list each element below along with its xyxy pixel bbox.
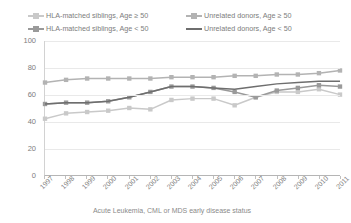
data-point-marker [232,90,236,94]
gridline [45,68,340,69]
data-point-marker [169,75,173,79]
x-axis-labels: 1997199819992000200120022003200420052006… [44,180,340,206]
data-point-marker [106,108,110,112]
data-point-marker [169,98,173,102]
data-point-marker [85,76,89,80]
data-point-marker [317,87,321,91]
data-point-marker [211,96,215,100]
data-point-marker [148,76,152,80]
data-point-marker [43,117,47,121]
legend-square-marker-icon [191,13,197,19]
y-axis-tick-label: 100 [23,37,36,45]
legend-swatch-icon [28,24,44,33]
legend-swatch-icon [28,11,44,20]
x-axis-title: Acute Leukemia, CML or MDS early disease… [0,207,344,214]
y-axis-tick-label: 20 [28,145,36,153]
legend-label: Unrelated donors, Age < 50 [204,24,292,33]
data-point-marker [148,107,152,111]
data-point-marker [127,76,131,80]
legend-square-marker-icon [33,26,39,32]
plot-area [44,41,340,176]
data-point-marker [296,86,300,90]
y-axis-labels: 100806040200 [0,36,40,176]
data-point-marker [254,74,258,78]
gridline [45,41,340,42]
legend-label: HLA-matched siblings, Age < 50 [46,24,148,33]
data-point-marker [317,71,321,75]
data-point-marker [275,88,279,92]
chart-legend: HLA-matched siblings, Age ≥ 50 Unrelated… [28,9,328,35]
data-point-marker [43,80,47,84]
legend-square-marker-icon [33,13,39,19]
data-point-marker [85,110,89,114]
data-point-marker [106,76,110,80]
plot-area-wrapper: 100806040200 [0,36,344,181]
data-point-marker [275,72,279,76]
data-point-marker [64,78,68,82]
legend-item-unrelated-age-ge-50[interactable]: Unrelated donors, Age ≥ 50 [186,9,326,22]
legend-label: Unrelated donors, Age ≥ 50 [204,11,291,20]
legend-line-icon [186,28,202,30]
y-axis-tick-label: 80 [28,64,36,72]
legend-item-unrelated-age-lt-50[interactable]: Unrelated donors, Age < 50 [186,22,326,35]
series-svg [45,41,340,175]
legend-item-siblings-age-lt-50[interactable]: HLA-matched siblings, Age < 50 [28,22,186,35]
y-axis-tick-label: 0 [32,172,36,180]
data-point-marker [127,106,131,110]
data-point-marker [232,103,236,107]
data-point-marker [296,72,300,76]
data-point-marker [338,84,342,88]
data-point-marker [232,74,236,78]
data-point-marker [296,90,300,94]
legend-swatch-icon [186,24,202,33]
data-point-marker [211,75,215,79]
y-axis-tick-label: 60 [28,91,36,99]
data-point-marker [64,111,68,115]
legend-item-siblings-age-ge-50[interactable]: HLA-matched siblings, Age ≥ 50 [28,9,186,22]
gridline [45,95,340,96]
data-point-marker [190,75,194,79]
y-axis-tick-label: 40 [28,118,36,126]
gridline [45,122,340,123]
data-point-marker [190,96,194,100]
gridline [45,149,340,150]
legend-label: HLA-matched siblings, Age ≥ 50 [46,11,148,20]
data-point-marker [317,83,321,87]
legend-swatch-icon [186,11,202,20]
